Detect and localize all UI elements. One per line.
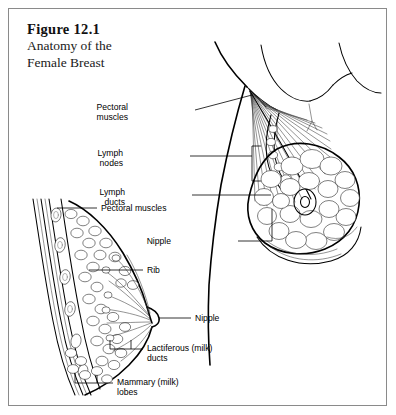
label-line: Pectoral <box>96 102 128 112</box>
label-line: Lymph <box>98 148 123 158</box>
nipple-areola-anterior <box>294 189 316 215</box>
label-pectoral-muscles: Pectoral muscles <box>96 102 128 123</box>
label-line: Lactiferous (milk) <box>147 343 212 353</box>
label-lymph-nodes: Lymph nodes <box>98 148 123 169</box>
label-rib: Rib <box>147 265 160 275</box>
label-line: ducts <box>147 353 212 363</box>
label-line: lobes <box>117 387 179 397</box>
label-mammary-lobes: Mammary (milk) lobes <box>117 377 179 398</box>
label-pectoral-muscles-cs: Pectoral muscles <box>101 203 166 213</box>
label-line: Mammary (milk) <box>117 377 179 387</box>
label-nipple-anterior: Nipple <box>147 236 171 246</box>
label-line: muscles <box>96 112 128 122</box>
leader-pectoral-muscles <box>195 95 252 110</box>
sagittal-cross-section <box>33 199 159 395</box>
label-line: Lymph <box>100 187 125 197</box>
label-line: Rib <box>147 265 160 275</box>
label-line: nodes <box>98 158 123 168</box>
label-line: Nipple <box>195 313 219 323</box>
figure-frame: Figure 12.1 Anatomy of the Female Breast <box>8 8 387 406</box>
label-nipple-cross-section: Nipple <box>195 313 219 323</box>
anterior-breast-view <box>208 42 381 365</box>
label-lactiferous-ducts: Lactiferous (milk) ducts <box>147 343 212 364</box>
label-line: Pectoral muscles <box>101 203 166 213</box>
label-line: Nipple <box>147 236 171 246</box>
